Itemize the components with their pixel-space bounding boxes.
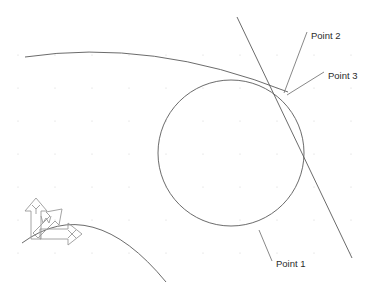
grid-dot xyxy=(313,153,314,154)
grid-dot xyxy=(17,186,18,187)
y-axis-label-glyph xyxy=(32,205,40,214)
grid-dot xyxy=(54,252,55,253)
grid-dot xyxy=(350,87,351,88)
grid-dot xyxy=(128,153,129,154)
grid-dot xyxy=(128,186,129,187)
grid-dot xyxy=(202,252,203,253)
grid-dot xyxy=(202,153,203,154)
grid-dot xyxy=(202,186,203,187)
grid-dot xyxy=(276,219,277,220)
grid-dot xyxy=(239,54,240,55)
grid-dot xyxy=(276,54,277,55)
grid-dot xyxy=(350,252,351,253)
cad-drawing-canvas[interactable]: Point 1 Point 2 Point 3 xyxy=(0,0,385,282)
lower-left-arc-curve[interactable] xyxy=(22,225,166,282)
grid-dot xyxy=(350,54,351,55)
grid-dot xyxy=(313,186,314,187)
grid-dot xyxy=(128,54,129,55)
grid-dot xyxy=(128,219,129,220)
grid-dot xyxy=(350,219,351,220)
point-2-label: Point 2 xyxy=(311,30,341,41)
grid-dot xyxy=(350,120,351,121)
grid-dot xyxy=(91,120,92,121)
grid-dot xyxy=(276,120,277,121)
main-circle[interactable] xyxy=(158,80,304,226)
grid-dot xyxy=(17,120,18,121)
grid-dot xyxy=(202,54,203,55)
grid-dot xyxy=(276,252,277,253)
grid-dot xyxy=(17,252,18,253)
grid-dot xyxy=(54,186,55,187)
grid-dot xyxy=(165,87,166,88)
grid-dot xyxy=(313,120,314,121)
grid-dot xyxy=(239,186,240,187)
grid-dot xyxy=(128,252,129,253)
grid-dot xyxy=(91,252,92,253)
grid-dot xyxy=(91,186,92,187)
annotation-label-layer: Point 1 Point 2 Point 3 xyxy=(276,30,358,269)
grid-dot-layer xyxy=(17,54,351,253)
point-1-label: Point 1 xyxy=(276,258,306,269)
tangent-line[interactable] xyxy=(237,17,352,258)
grid-dot xyxy=(54,153,55,154)
grid-dot xyxy=(202,120,203,121)
point-3-label: Point 3 xyxy=(328,70,358,81)
grid-dot xyxy=(313,219,314,220)
grid-dot xyxy=(54,120,55,121)
grid-dot xyxy=(276,153,277,154)
upper-arc-curve[interactable] xyxy=(25,52,288,92)
point3-leader-line xyxy=(287,72,324,95)
grid-dot xyxy=(54,54,55,55)
grid-dot xyxy=(91,219,92,220)
coordinate-axis-indicator[interactable] xyxy=(25,198,82,245)
grid-dot xyxy=(313,252,314,253)
grid-dot xyxy=(17,153,18,154)
grid-dot xyxy=(239,120,240,121)
grid-dot xyxy=(239,87,240,88)
grid-dot xyxy=(165,153,166,154)
point2-leader-line xyxy=(284,32,307,93)
grid-dot xyxy=(202,87,203,88)
grid-dot xyxy=(17,54,18,55)
grid-dot xyxy=(54,87,55,88)
grid-dot xyxy=(350,186,351,187)
grid-dot xyxy=(165,54,166,55)
grid-dot xyxy=(165,219,166,220)
grid-dot xyxy=(239,252,240,253)
grid-dot xyxy=(350,153,351,154)
grid-dot xyxy=(239,219,240,220)
grid-dot xyxy=(17,87,18,88)
x-axis-label-glyph xyxy=(68,230,76,238)
drawing-surface[interactable]: Point 1 Point 2 Point 3 xyxy=(0,0,385,282)
grid-dot xyxy=(17,219,18,220)
point1-leader-line xyxy=(259,230,272,261)
grid-dot xyxy=(276,186,277,187)
grid-dot xyxy=(128,120,129,121)
grid-dot xyxy=(313,54,314,55)
grid-dot xyxy=(128,87,129,88)
grid-dot xyxy=(91,54,92,55)
grid-dot xyxy=(91,87,92,88)
x-axis-arrow xyxy=(40,223,82,245)
grid-dot xyxy=(91,153,92,154)
annotation-leader-layer xyxy=(259,32,324,261)
grid-dot xyxy=(313,87,314,88)
grid-dot xyxy=(165,252,166,253)
grid-dot xyxy=(239,153,240,154)
